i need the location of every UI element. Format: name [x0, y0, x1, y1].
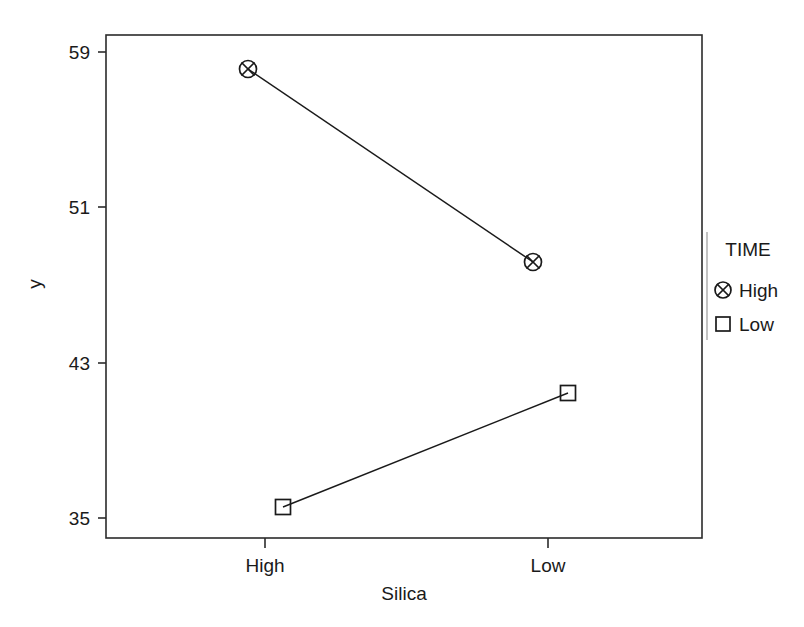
series-low-segment — [283, 393, 568, 507]
legend-entry-low[interactable]: Low — [716, 314, 774, 335]
x-tick-label-1: Low — [531, 555, 566, 576]
series-high-segment — [248, 69, 533, 262]
legend-label-high: High — [739, 280, 778, 301]
legend-entry-high[interactable]: High — [715, 280, 778, 301]
legend-title: TIME — [725, 239, 770, 260]
series-high — [240, 61, 542, 271]
series-high-point-1 — [525, 254, 542, 271]
y-tick-label-0: 59 — [69, 42, 90, 63]
series-low — [276, 386, 576, 515]
plot-frame — [106, 35, 702, 538]
x-tick-label-0: High — [245, 555, 284, 576]
y-axis-title: y — [24, 279, 45, 289]
y-tick-label-3: 35 — [69, 508, 90, 529]
plot-canvas: 59 51 43 35 High Low Silica y — [0, 0, 804, 627]
y-axis-ticks — [98, 52, 106, 518]
y-tick-label-2: 43 — [69, 353, 90, 374]
legend-label-low: Low — [739, 314, 774, 335]
x-axis-title: Silica — [381, 583, 427, 604]
series-high-point-0 — [240, 61, 257, 78]
square-marker — [716, 317, 730, 331]
y-tick-label-1: 51 — [69, 197, 90, 218]
x-axis-ticks — [265, 538, 548, 548]
interaction-plot-figure: 59 51 43 35 High Low Silica y — [0, 0, 804, 627]
legend: TIME High Low — [707, 232, 778, 340]
